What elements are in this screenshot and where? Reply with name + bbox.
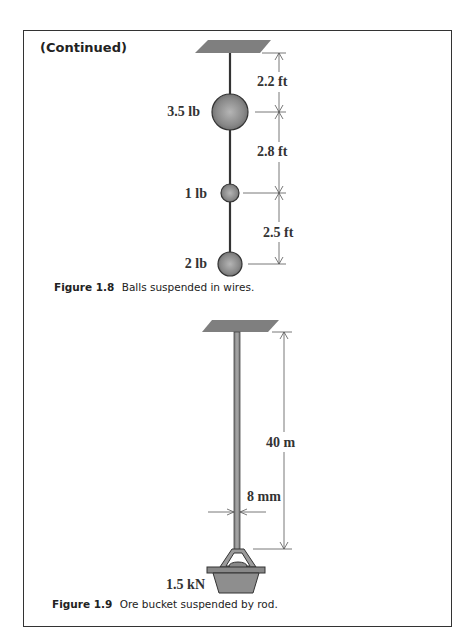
load-label: 1.5 kN	[166, 577, 205, 592]
figure-1-8-caption: Figure 1.8 Balls suspended in wires.	[54, 281, 254, 293]
caption-number: Figure 1.8	[54, 281, 114, 293]
rod-icon	[234, 332, 240, 550]
ball-small-icon	[221, 184, 239, 202]
figure-1-9-caption: Figure 1.9 Ore bucket suspended by rod.	[52, 598, 278, 610]
dimension-label: 2.2 ft	[257, 74, 288, 89]
ball-large-icon	[212, 94, 248, 130]
ball-weight-label: 3.5 lb	[167, 104, 200, 119]
ceiling-support-icon	[202, 320, 279, 332]
dimension-label: 2.8 ft	[257, 144, 288, 159]
ball-weight-label: 1 lb	[185, 186, 207, 201]
rod-length-label: 40 m	[266, 435, 296, 450]
ore-bucket-icon	[207, 549, 265, 593]
ceiling-support-icon	[195, 40, 271, 53]
figure-1-9-diagram: 40 m 8 mm 1.5 kN	[166, 320, 295, 593]
caption-text: Ore bucket suspended by rod.	[120, 598, 278, 610]
rod-diameter-label: 8 mm	[247, 489, 281, 504]
figure-1-8-diagram: 2.2 ft 2.8 ft 2.5 ft 3.5 lb 1 lb 2 lb	[167, 40, 293, 276]
caption-text: Balls suspended in wires.	[122, 281, 255, 293]
figures-diagram: 2.2 ft 2.8 ft 2.5 ft 3.5 lb 1 lb 2 lb	[0, 0, 473, 631]
caption-number: Figure 1.9	[52, 598, 112, 610]
ball-weight-label: 2 lb	[185, 256, 207, 271]
ball-medium-icon	[218, 252, 242, 276]
dimension-label: 2.5 ft	[263, 225, 294, 240]
